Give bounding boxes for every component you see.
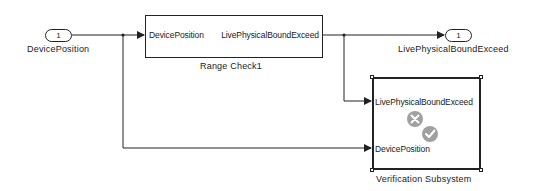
x-circle-icon — [407, 111, 423, 127]
inport-block[interactable]: 1 — [45, 29, 72, 42]
inport-label: DevicePosition — [27, 44, 89, 54]
range-check-output-port: LivePhysicalBoundExceed — [221, 30, 319, 40]
outport-number: 1 — [456, 31, 460, 40]
selection-handle[interactable] — [370, 75, 374, 79]
range-check-name: Range Check1 — [200, 61, 262, 71]
outport-block[interactable]: 1 — [445, 29, 472, 42]
outport-label: LivePhysicalBoundExceed — [398, 44, 509, 54]
range-check-block[interactable]: DevicePosition LivePhysicalBoundExceed — [145, 15, 323, 58]
verification-subsystem-name: Verification Subsystem — [376, 174, 471, 184]
selection-handle[interactable] — [479, 75, 483, 79]
signal-line-rangecheck-to-verification[interactable] — [344, 35, 371, 101]
verification-input-port-1: LivePhysicalBoundExceed — [375, 97, 473, 107]
selection-handle[interactable] — [370, 168, 374, 172]
selection-handle[interactable] — [479, 168, 483, 172]
inport-number: 1 — [56, 31, 60, 40]
verification-status-icons — [404, 109, 464, 149]
verification-subsystem-block[interactable]: LivePhysicalBoundExceed DevicePosition — [372, 77, 481, 170]
branch-junction — [121, 33, 124, 36]
simulink-canvas: 1 DevicePosition DevicePosition LivePhys… — [0, 0, 538, 191]
branch-junction — [342, 33, 345, 36]
range-check-input-port: DevicePosition — [149, 30, 204, 40]
check-circle-icon — [422, 126, 438, 142]
